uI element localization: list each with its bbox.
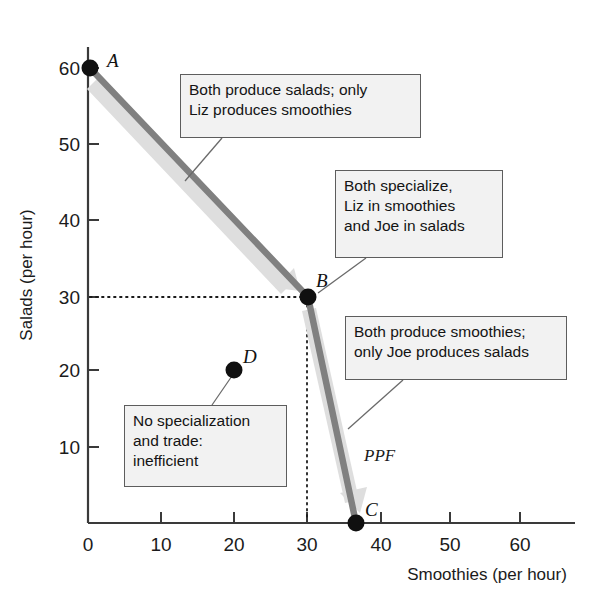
callout-both-smoothies: Both produce smoothies; only Joe produce… (345, 316, 567, 380)
y-tick-labels: 60 50 40 30 20 10 (59, 58, 80, 458)
x-tick-label-30: 30 (296, 534, 317, 555)
y-tick-label-40: 40 (59, 210, 80, 231)
x-axis-title: Smoothies (per hour) (407, 565, 567, 584)
x-tick-label-10: 10 (150, 534, 171, 555)
y-tick-label-30: 30 (59, 287, 80, 308)
y-tick-label-20: 20 (59, 360, 80, 381)
y-axis-title: Salads (per hour) (17, 209, 36, 340)
data-point-label-d: D (242, 346, 257, 367)
data-point-label-a: A (105, 50, 119, 71)
data-point-d (226, 362, 243, 379)
leader-line-both-salads (185, 138, 222, 181)
ppf-curve-label: PPF (363, 446, 396, 465)
data-point-label-b: B (316, 270, 328, 291)
callout-no-specialization: No specialization and trade: inefficient (124, 405, 287, 487)
ppf-figure: 60 50 40 30 20 10 0 10 20 30 40 50 60 Sm… (0, 0, 601, 603)
data-point-b (300, 289, 317, 306)
data-point-c (348, 515, 365, 532)
x-tick-labels: 0 10 20 30 40 50 60 (83, 534, 531, 555)
callout-both-salads: Both produce salads; only Liz produces s… (180, 74, 421, 138)
y-tick-label-60: 60 (59, 58, 80, 79)
leader-line-both-smoothies (348, 380, 403, 429)
y-tick-label-10: 10 (59, 437, 80, 458)
x-tick-label-0: 0 (83, 534, 94, 555)
x-tick-label-40: 40 (370, 534, 391, 555)
data-point-a (82, 60, 99, 77)
x-tick-label-60: 60 (509, 534, 530, 555)
x-tick-label-50: 50 (439, 534, 460, 555)
x-tick-label-20: 20 (223, 534, 244, 555)
y-tick-label-50: 50 (59, 134, 80, 155)
data-point-label-c: C (365, 499, 378, 520)
callout-both-specialize: Both specialize, Liz in smoothies and Jo… (335, 170, 503, 258)
